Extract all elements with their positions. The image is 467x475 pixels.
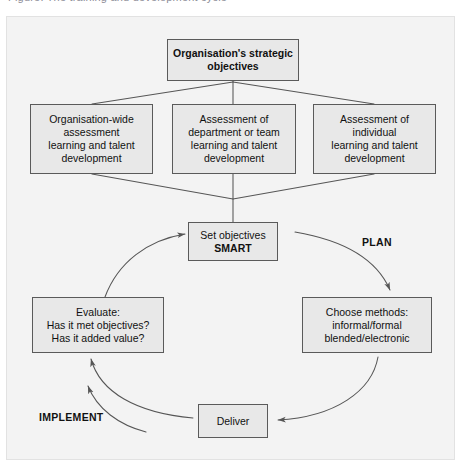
node-organisation-wide-assessment: Organisation-wide assessment learning an… (30, 104, 153, 174)
node-line: Organisation-wide (49, 113, 134, 126)
node-deliver: Deliver (198, 404, 268, 438)
node-line: Has it added value? (52, 332, 145, 345)
node-line: development (61, 152, 121, 165)
node-evaluate: Evaluate: Has it met objectives? Has it … (32, 297, 164, 353)
node-line: department or team (188, 126, 280, 139)
node-line: Assessment of (200, 113, 269, 126)
node-set-objectives-smart: Set objectives SMART (188, 222, 278, 261)
node-assessment-of-individual: Assessment of individual learning and ta… (313, 104, 436, 174)
node-line: Assessment of (340, 113, 409, 126)
figure-caption: Figure: The training and development cyc… (0, 0, 467, 14)
node-organisations-strategic-objectives: Organisation's strategic objectives (167, 39, 299, 81)
node-line: Organisation's strategic (173, 47, 293, 60)
figure-caption-text: Figure: The training and development cyc… (8, 0, 227, 3)
node-line: blended/electronic (324, 332, 409, 345)
node-line: objectives (207, 60, 258, 73)
node-line: development (204, 152, 264, 165)
node-line: informal/formal (332, 319, 401, 332)
node-line: Choose methods: (326, 306, 408, 319)
phase-label-plan: PLAN (362, 236, 392, 248)
node-line: Set objectives (200, 229, 265, 242)
node-line: development (344, 152, 404, 165)
node-assessment-of-department-or-team: Assessment of department or team learnin… (172, 104, 296, 174)
node-line: Evaluate: (76, 306, 120, 319)
node-line: assessment (63, 126, 119, 139)
node-choose-methods: Choose methods: informal/formal blended/… (302, 297, 432, 353)
node-line: learning and talent (191, 139, 277, 152)
node-line: learning and talent (331, 139, 417, 152)
node-line: Deliver (217, 415, 250, 428)
node-line: individual (353, 126, 397, 139)
node-line: learning and talent (48, 139, 134, 152)
phase-label-implement: IMPLEMENT (39, 411, 104, 423)
node-line-smart: SMART (214, 242, 251, 255)
node-line: Has it met objectives? (47, 319, 150, 332)
